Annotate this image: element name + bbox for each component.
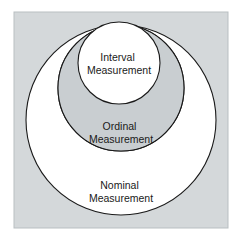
figure-root: Interval Measurement Ordinal Measurement… bbox=[0, 0, 242, 242]
label-interval-line1: Interval bbox=[100, 51, 134, 63]
label-interval-line2: Measurement bbox=[87, 64, 151, 76]
label-ordinal-line1: Ordinal bbox=[103, 120, 137, 132]
nested-circles-diagram: Interval Measurement Ordinal Measurement… bbox=[0, 0, 242, 242]
label-nominal-line1: Nominal bbox=[100, 179, 139, 191]
label-nominal-line2: Measurement bbox=[89, 192, 153, 204]
label-ordinal-line2: Measurement bbox=[89, 133, 153, 145]
